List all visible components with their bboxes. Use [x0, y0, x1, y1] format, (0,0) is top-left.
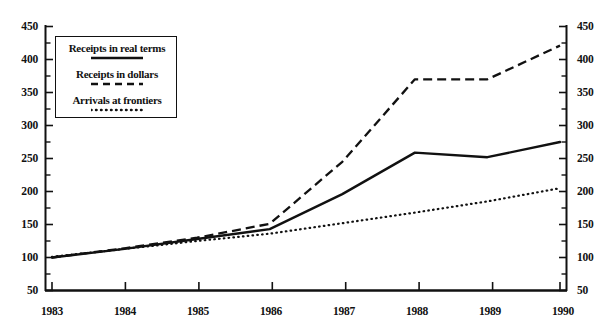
chart-container: 450 400 350 300 250 200 150 100 50 450 4…: [0, 0, 611, 326]
y-axis-left-major-ticks: [46, 27, 54, 291]
legend-item-arrivals-at-frontiers: Arrivals at frontiers: [56, 94, 178, 112]
x-axis-ticks: [52, 282, 560, 290]
legend-swatch-dotted-icon: [56, 108, 178, 112]
series-line-receipts-in-real-terms: [52, 142, 560, 258]
legend-label-receipts-in-real-terms: Receipts in real terms: [56, 42, 178, 54]
legend-item-receipts-in-real-terms: Receipts in real terms: [56, 42, 178, 60]
legend-swatch-solid-icon: [56, 56, 178, 60]
series-line-arrivals-at-frontiers: [52, 188, 560, 257]
chart-legend: Receipts in real terms Receipts in dolla…: [55, 36, 177, 118]
legend-swatch-dashed-icon: [56, 82, 178, 86]
legend-item-receipts-in-dollars: Receipts in dollars: [56, 68, 178, 86]
legend-label-arrivals-at-frontiers: Arrivals at frontiers: [56, 94, 178, 106]
legend-label-receipts-in-dollars: Receipts in dollars: [56, 68, 178, 80]
y-axis-right-major-ticks: [559, 27, 567, 291]
